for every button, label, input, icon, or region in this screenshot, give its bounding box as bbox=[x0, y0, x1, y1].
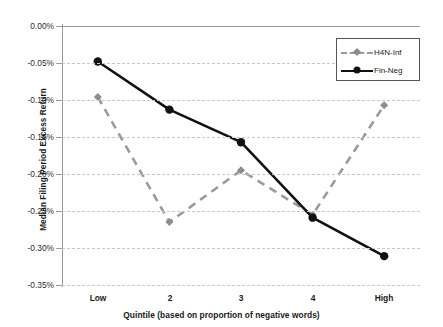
gridline bbox=[62, 248, 420, 249]
data-point bbox=[94, 57, 102, 65]
diamond-icon bbox=[353, 48, 362, 57]
gridline bbox=[62, 285, 420, 286]
gridline-zero bbox=[62, 26, 420, 27]
x-tick-label-4: 4 bbox=[283, 293, 343, 303]
chart-legend: H4N-Inf Fin-Neg bbox=[336, 38, 420, 81]
gridline bbox=[62, 211, 420, 212]
y-tick-label: 0.00% bbox=[6, 21, 54, 31]
legend-label-fin-neg: Fin-Neg bbox=[374, 66, 402, 75]
legend-entry-h4n-inf: H4N-Inf bbox=[337, 45, 419, 59]
legend-label-h4n-inf: H4N-Inf bbox=[374, 48, 402, 57]
x-tick-label-3: 3 bbox=[211, 293, 271, 303]
series-markers-h4n-inf bbox=[94, 93, 388, 226]
data-point bbox=[237, 138, 245, 146]
legend-swatch-fin-neg bbox=[340, 64, 374, 76]
series-line-h4n-inf bbox=[98, 97, 384, 222]
gridline bbox=[62, 174, 420, 175]
legend-swatch-h4n-inf bbox=[340, 46, 374, 58]
legend-entry-fin-neg: Fin-Neg bbox=[337, 63, 419, 77]
x-tick-label-low: Low bbox=[68, 293, 128, 303]
data-point bbox=[165, 105, 173, 113]
x-axis-title: Quintile (based on proportion of negativ… bbox=[0, 310, 443, 320]
chart-figure: 0.00% -0.05% -0.10% -0.15% -0.20% -0.25%… bbox=[0, 0, 443, 327]
y-tick-label: -0.35% bbox=[6, 280, 54, 290]
gridline bbox=[62, 100, 420, 101]
gridline bbox=[62, 137, 420, 138]
cut-off-caption bbox=[0, 0, 443, 9]
data-point bbox=[380, 252, 388, 260]
circle-icon bbox=[353, 66, 362, 75]
data-point bbox=[380, 101, 388, 109]
y-tick-label: -0.30% bbox=[6, 243, 54, 253]
y-tick-label: -0.05% bbox=[6, 58, 54, 68]
x-tick-label-2: 2 bbox=[140, 293, 200, 303]
y-axis-title: Median Filing Period Excess Return bbox=[39, 75, 48, 245]
data-point bbox=[308, 213, 316, 221]
series-line-fin-neg bbox=[98, 62, 384, 257]
x-tick-label-high: High bbox=[354, 293, 414, 303]
